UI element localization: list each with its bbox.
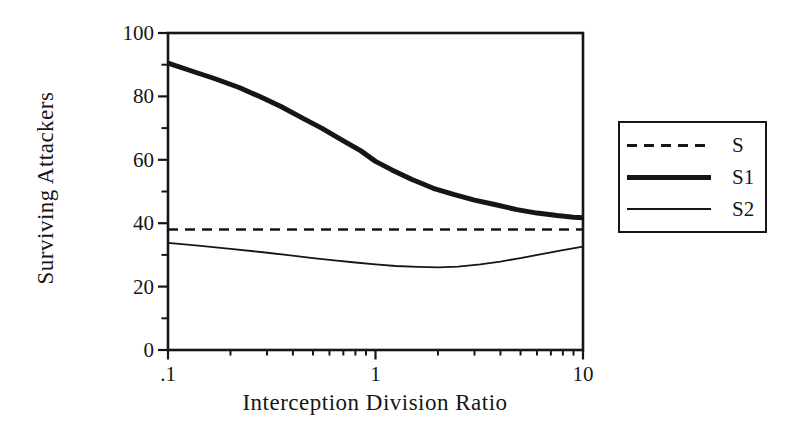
x-tick-label: .1 bbox=[160, 362, 176, 386]
legend-label-S1: S1 bbox=[732, 167, 754, 188]
x-tick-label: 10 bbox=[573, 362, 594, 386]
legend-line-swatch-S1 bbox=[627, 175, 711, 180]
figure: 020406080100.1110 Surviving Attackers In… bbox=[0, 0, 806, 435]
legend-item-S1: S1 bbox=[627, 167, 765, 188]
y-tick-label: 0 bbox=[144, 338, 155, 362]
legend-line-swatch-S2 bbox=[627, 208, 711, 210]
legend-line-swatch-S bbox=[627, 144, 711, 147]
y-tick-label: 40 bbox=[133, 211, 154, 235]
series-lines bbox=[168, 63, 583, 267]
series-line-S2 bbox=[168, 243, 583, 267]
legend-item-S: S bbox=[627, 135, 765, 156]
legend-item-S2: S2 bbox=[627, 199, 765, 220]
legend: SS1S2 bbox=[618, 121, 767, 233]
x-axis-title: Interception Division Ratio bbox=[242, 390, 507, 416]
y-axis: 020406080100 bbox=[123, 21, 169, 362]
x-tick-label: 1 bbox=[370, 362, 381, 386]
y-tick-label: 80 bbox=[133, 84, 154, 108]
y-tick-label: 100 bbox=[123, 21, 155, 45]
legend-label-S2: S2 bbox=[732, 199, 754, 220]
y-tick-label: 20 bbox=[133, 275, 154, 299]
x-axis: .1110 bbox=[160, 350, 593, 386]
plot-frame bbox=[168, 33, 583, 350]
legend-label-S: S bbox=[732, 135, 744, 156]
y-tick-label: 60 bbox=[133, 148, 154, 172]
series-line-S1 bbox=[168, 63, 583, 218]
y-axis-title: Surviving Attackers bbox=[33, 92, 59, 285]
